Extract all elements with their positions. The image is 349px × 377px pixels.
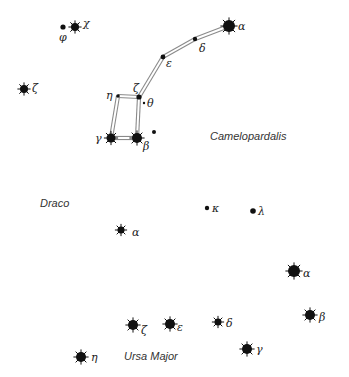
star-label: θ	[147, 98, 154, 109]
star-icon	[212, 316, 224, 328]
star-label: η	[106, 90, 113, 101]
star-label: ε	[166, 58, 172, 69]
star-label: α	[238, 21, 245, 32]
star-label: δ	[226, 318, 233, 329]
constellation-name: Ursa Major	[124, 351, 178, 362]
constellation-line	[111, 96, 118, 138]
star-label: α	[303, 268, 310, 279]
star-label: χ	[83, 18, 90, 29]
star-label: β	[143, 141, 149, 152]
star-icon	[68, 20, 81, 33]
star-label: λ	[258, 206, 265, 217]
constellation-line	[118, 96, 139, 97]
star-icon	[116, 94, 120, 98]
star-label: α	[132, 227, 139, 238]
star-icon	[17, 82, 30, 95]
star-icon	[60, 24, 65, 29]
star-label: η	[91, 352, 98, 363]
constellation-name: Draco	[40, 198, 69, 209]
star-label: φ	[59, 32, 67, 43]
star-icon	[136, 94, 141, 99]
star-icon	[193, 37, 197, 41]
star-icon	[125, 317, 140, 332]
star-label: ζ	[32, 83, 38, 94]
star-icon	[239, 341, 254, 356]
star-icon	[143, 102, 145, 104]
star-icon	[152, 130, 156, 134]
star-icon	[205, 206, 209, 210]
star-icon	[115, 224, 127, 236]
star-label: γ	[256, 344, 263, 355]
star-icon	[73, 349, 88, 364]
star-icon	[250, 208, 256, 214]
star-chart: αδεζηθγβφχζακλαβδεζηγ CamelopardalisDrac…	[0, 0, 349, 377]
star-label: δ	[199, 43, 206, 54]
constellation-name: Camelopardalis	[210, 131, 286, 142]
sky-map	[0, 0, 349, 377]
star-icon	[161, 55, 166, 60]
star-label: β	[319, 312, 325, 323]
star-label: γ	[95, 133, 102, 144]
star-icon	[285, 262, 302, 279]
star-label: ε	[177, 322, 183, 333]
star-label: ζ	[133, 83, 139, 94]
star-icon	[302, 307, 317, 322]
star-label: κ	[212, 203, 219, 214]
constellation-lines-fill	[111, 26, 229, 138]
star-icon	[104, 131, 118, 145]
star-label: ζ	[141, 325, 147, 336]
star-icon	[220, 17, 237, 34]
constellation-lines-outline	[111, 26, 229, 138]
constellation-line	[163, 39, 195, 57]
constellation-line	[139, 57, 163, 97]
star-icon	[162, 316, 177, 331]
